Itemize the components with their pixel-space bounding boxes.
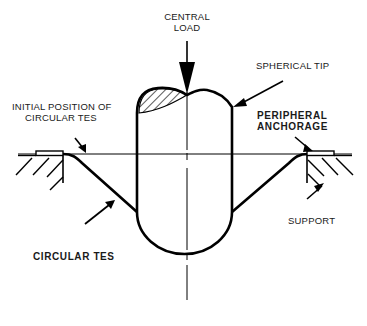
- right-anchorage: [307, 151, 353, 186]
- initial-position-line-2: CIRCULAR TES: [12, 112, 112, 123]
- circular-tes-membrane-left: [63, 154, 137, 212]
- arrow-circular-tes: [85, 200, 115, 224]
- spherical-tip-label: SPHERICAL TIP: [256, 60, 329, 71]
- indentation-diagram: [0, 0, 367, 326]
- arrow-spherical-tip: [233, 81, 283, 107]
- central-load-line-1: CENTRAL: [163, 11, 211, 22]
- arrow-support: [307, 183, 324, 199]
- circular-tes-label: CIRCULAR TES: [33, 251, 115, 262]
- central-load-line-2: LOAD: [163, 22, 211, 33]
- spherical-tip-indenter: [137, 88, 232, 254]
- peripheral-anchorage-line-2: ANCHORAGE: [257, 121, 328, 132]
- central-load-label: CENTRAL LOAD: [163, 11, 211, 33]
- central-load-arrow: [179, 41, 195, 94]
- support-label: SUPPORT: [288, 215, 335, 226]
- arrow-peripheral-anchorage: [295, 137, 313, 152]
- initial-position-line-1: INITIAL POSITION OF: [12, 101, 112, 112]
- peripheral-anchorage-line-1: PERIPHERAL: [257, 110, 328, 121]
- initial-position-label: INITIAL POSITION OF CIRCULAR TES: [12, 101, 112, 123]
- circular-tes-membrane-right: [232, 154, 308, 212]
- arrow-initial-position: [75, 138, 86, 153]
- peripheral-anchorage-label: PERIPHERAL ANCHORAGE: [257, 110, 328, 132]
- left-anchorage: [16, 151, 63, 190]
